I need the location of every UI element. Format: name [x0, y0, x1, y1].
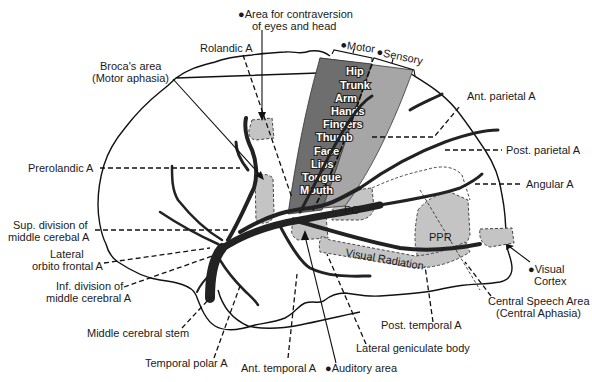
label-post-parietal: Post. parietal A — [506, 144, 581, 156]
label-eyes-head-line1: ●Area for contraversion — [238, 8, 353, 20]
brain-diagram-svg: Hip Trunk Arm Hands Fingers Thumb Face L… — [0, 0, 592, 382]
label-post-temporal: Post. temporal A — [381, 319, 462, 331]
label-ant-parietal: Ant. parietal A — [467, 90, 536, 102]
po-label: PO — [344, 204, 360, 216]
label-sup-div-line2: middle cerebal A — [8, 231, 90, 243]
homunculus-arm: Arm — [335, 92, 357, 104]
label-broca-line1: Broca's area — [100, 60, 162, 72]
homunculus-mouth: Mouth — [300, 184, 333, 196]
label-prerolandic: Prerolandic A — [28, 162, 94, 174]
sensory-header: ●Sensory — [376, 45, 425, 67]
territory-eyes-head — [249, 118, 274, 140]
label-sup-div-line1: Sup. division of — [13, 219, 89, 231]
label-inf-div-line1: Inf. division of — [56, 280, 124, 292]
label-eyes-head-line2: of eyes and head — [252, 20, 336, 32]
label-temporal-polar: Temporal polar A — [145, 357, 228, 369]
label-angular: Angular A — [526, 178, 574, 190]
label-visual-cortex-line2: Cortex — [534, 275, 567, 287]
label-lat-orbito-line2: orbito frontal A — [32, 260, 104, 272]
label-lat-orbito-line1: Lateral — [50, 248, 84, 260]
territory-visual-cortex — [480, 228, 514, 247]
label-central-speech-line1: Central Speech Area — [488, 295, 590, 307]
label-ant-temporal: Ant. temporal A — [241, 362, 317, 374]
label-lateral-geniculate: Lateral geniculate body — [356, 342, 470, 354]
homunculus-trunk: Trunk — [340, 79, 371, 91]
label-visual-cortex-line1: ●Visual — [528, 263, 564, 275]
label-broca-line2: (Motor aphasia) — [92, 72, 169, 84]
label-mca-stem: Middle cerebral stem — [87, 327, 189, 339]
homunculus-hip: Hip — [346, 65, 364, 77]
ppr-label: PPR — [429, 231, 452, 243]
temporal-lobe-contour — [218, 290, 360, 329]
label-inf-div-line2: middle cerebral A — [46, 292, 132, 304]
label-central-speech-line2: (Central Aphasia) — [496, 307, 581, 319]
homunculus-fingers: Fingers — [323, 118, 363, 130]
label-rolandic: Rolandic A — [200, 42, 253, 54]
homunculus-thumb: Thumb — [316, 131, 353, 143]
diagram-canvas: Hip Trunk Arm Hands Fingers Thumb Face L… — [0, 0, 592, 382]
label-auditory: ●Auditory area — [325, 362, 398, 374]
